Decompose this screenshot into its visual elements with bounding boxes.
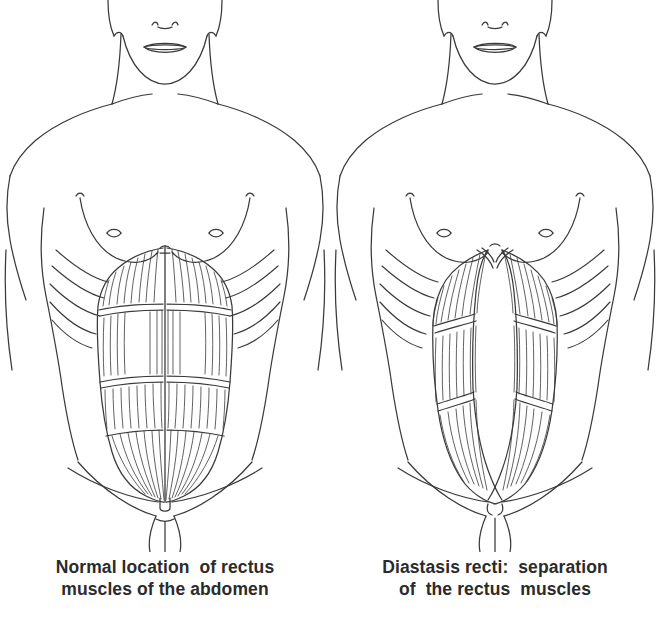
left-axilla-fold [406,193,414,196]
rectus-abdominis-left [97,248,164,502]
fiber-striations-right-mid [514,326,555,402]
rib-arc-right-5 [568,320,608,348]
pubic-right-edge [174,516,181,552]
navel-left [487,504,492,515]
caption-normal-line-1: Normal location of rectus [0,556,330,578]
caption-diastasis: Diastasis recti: separation of the rectu… [330,556,660,600]
inguinal-crease-left [68,468,158,502]
illustration-normal-rectus [0,0,330,552]
rib-arc-left-5 [382,320,422,348]
tendinous-band-right-2b [167,382,229,388]
rib-arc-left-1 [386,250,438,282]
right-ear-lobe [207,32,216,36]
left-ear-lobe [114,32,123,36]
head-right-contour [216,0,222,36]
rib-arc-right-4 [564,302,610,334]
pelvis-group [398,462,592,552]
lip-line [146,48,184,50]
rib-arc-right-5 [238,320,278,348]
left-shoulder-line [340,104,442,176]
rib-arc-left-1 [56,250,108,282]
clavicle-hollow-left [442,94,482,104]
right-nostril-icon [502,22,508,25]
tendinous-band-right-1 [515,314,556,326]
clavicle-hollow-right [508,94,548,104]
left-flank-outline [371,208,408,460]
panel-diastasis-recti: Diastasis recti: separation of the rectu… [330,0,660,629]
caption-normal-line-2: muscles of the abdomen [0,578,330,600]
neck-left [442,34,451,104]
caption-diastasis-line-2: of the rectus muscles [330,578,660,600]
left-arm-inner-line [7,176,26,300]
fiber-striations-left-seg3 [105,383,162,429]
tendinous-band-left-1b [435,321,476,333]
chest-group [406,193,584,262]
right-arm-outer-edge [318,250,325,370]
right-flank-outline [582,208,619,460]
right-shoulder-line [548,104,650,176]
right-shoulder-line [218,104,320,176]
left-arm-inner-line [337,176,356,300]
fiber-striations-left-upper [103,249,158,306]
rib-arc-left-4 [380,302,426,334]
right-areola-icon [539,233,553,237]
nose-base [158,27,172,29]
fiber-striations-right-seg3 [168,383,225,429]
left-areola-icon [437,233,451,237]
clavicle-hollow-right [178,94,218,104]
left-shoulder-line [10,104,112,176]
lip-line [476,48,514,50]
tendinous-band-right-1 [167,304,231,310]
caption-normal: Normal location of rectus muscles of the… [0,556,330,600]
tendinous-band-right-2 [167,376,230,382]
caption-diastasis-line-1: Diastasis recti: separation [330,556,660,578]
left-axilla-fold [76,193,84,196]
fiber-striations-left-seg2 [103,311,162,376]
nose-base [488,27,502,29]
right-arm-inner-line [634,176,653,300]
illustration-diastasis-recti [330,0,660,552]
rib-arc-right-1 [222,250,274,282]
rectus-abdominis-right-displaced [488,250,557,504]
left-arm-outer-edge [335,250,342,370]
right-areola-icon [209,233,223,237]
tendinous-band-right-1b [167,310,230,316]
left-nostril-icon [152,22,158,25]
tendinous-band-right-3 [167,430,224,436]
head-right-contour [546,0,552,36]
tendinous-band-left-3 [106,430,163,436]
right-nostril-icon [172,22,178,25]
neck-right [209,34,218,104]
left-nipple-icon [107,229,121,233]
right-flank-outline [252,208,289,460]
tendinous-band-left-2b [101,382,163,388]
tendinous-band-left-2b [438,399,475,411]
left-ear-lobe [444,32,453,36]
tendinous-band-left-1b [100,310,163,316]
fiber-striations-right-lower [166,430,218,500]
medical-illustration-figure: Normal location of rectus muscles of the… [0,0,660,629]
right-axilla-fold [576,193,584,196]
pubic-left-edge [149,516,156,552]
neck-left [112,34,121,104]
right-nipple-icon [209,229,223,233]
rib-arc-left-3 [380,284,430,316]
right-nipple-icon [539,229,553,233]
pubic-left-edge [479,516,486,552]
rib-arc-right-3 [230,284,280,316]
head-left-contour [108,0,114,36]
tendinous-band-left-2 [100,376,163,382]
rib-arc-right-4 [234,302,280,334]
fiber-striations-right-seg2 [168,311,227,376]
rib-arc-right-1 [552,250,604,282]
fiber-striations-left-lower [112,430,164,500]
rib-arc-left-3 [50,284,100,316]
tendinous-band-left-1 [434,314,475,326]
tendinous-band-right-2b [515,399,552,411]
neck-right [539,34,548,104]
right-ear-lobe [537,32,546,36]
head-left-contour [438,0,444,36]
separation-gap [477,244,513,268]
right-arm-outer-edge [648,250,655,370]
left-flank-outline [41,208,78,460]
